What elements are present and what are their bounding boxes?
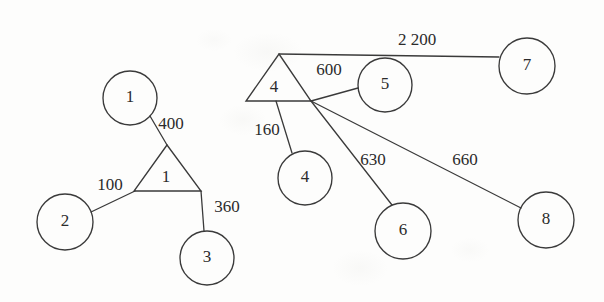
edge-weight-630: 630 [360, 150, 386, 169]
edge-weight-160: 160 [254, 120, 280, 139]
edge-weight-360: 360 [214, 197, 240, 216]
edge-triangle4-circle8 [311, 101, 521, 208]
node-label-circle-1: 1 [126, 87, 135, 106]
edge-weight-660: 660 [452, 150, 478, 169]
node-label-triangle-1: 1 [162, 167, 171, 186]
node-label-circle-3: 3 [203, 247, 212, 266]
edge-weight-100: 100 [97, 175, 123, 194]
edge-weight-2200: 2 200 [398, 30, 436, 49]
node-label-circle-4: 4 [301, 167, 310, 186]
node-label-circle-8: 8 [542, 209, 551, 228]
edge-triangle4-circle7 [279, 54, 499, 57]
node-triangle-4[interactable] [246, 54, 311, 101]
node-label-circle-6: 6 [399, 220, 408, 239]
edge-triangle1-circle3 [201, 191, 204, 231]
edge-weight-600: 600 [316, 60, 342, 79]
node-label-circle-5: 5 [381, 74, 390, 93]
node-label-circle-7: 7 [523, 55, 532, 74]
diagram-canvas: 1 2 3 1 4 4 5 6 7 8 400 100 360 2 200 60… [0, 0, 604, 302]
node-label-circle-2: 2 [61, 211, 70, 230]
node-label-triangle-4: 4 [270, 77, 279, 96]
network-diagram: 1 2 3 1 4 4 5 6 7 8 400 100 360 2 200 60… [0, 0, 604, 302]
edge-triangle4-circle5 [311, 88, 358, 101]
node-layer [37, 38, 574, 285]
edge-weight-400: 400 [158, 114, 184, 133]
edge-circle2-triangle1 [91, 191, 135, 212]
